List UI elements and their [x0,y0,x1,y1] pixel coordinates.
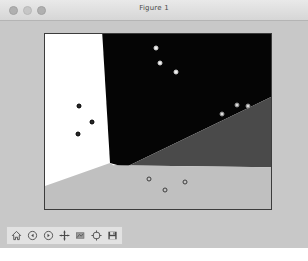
data-point [158,60,163,65]
data-point [182,179,187,184]
window-titlebar[interactable]: Figure 1 [0,0,308,21]
data-point [75,132,80,137]
data-point [246,103,251,108]
save-disk-icon[interactable] [105,228,120,243]
data-point [154,45,159,50]
y-tick [44,160,45,161]
forward-arrow-icon[interactable] [41,228,56,243]
data-point [90,120,95,125]
pan-move-icon[interactable] [57,228,72,243]
x-tick [62,209,63,210]
zoom-rect-icon[interactable] [73,228,88,243]
y-tick [44,141,45,142]
data-point [220,112,225,117]
window-title: Figure 1 [0,4,308,12]
navigation-toolbar[interactable] [6,226,123,245]
matplotlib-figure: 0123456780123456 [12,25,296,242]
x-tick [217,209,218,210]
configure-subplots-icon[interactable] [89,228,104,243]
y-tick [44,47,45,48]
plot-axes[interactable]: 0123456780123456 [44,33,272,210]
back-arrow-icon[interactable] [25,228,40,243]
data-point [173,70,178,75]
y-tick [44,104,45,105]
y-tick [44,179,45,180]
data-point [234,103,239,108]
y-tick [44,85,45,86]
figure-canvas-area: 0123456780123456 [0,21,308,248]
x-tick [155,209,156,210]
home-icon[interactable] [9,228,24,243]
x-tick [248,209,249,210]
figure-window: Figure 1 0123456780123456 [0,0,308,248]
data-point [162,188,167,193]
data-point [77,104,82,109]
page-bottom-strip [0,248,308,261]
data-point [147,177,152,182]
x-tick [93,209,94,210]
x-tick [186,209,187,210]
y-tick [44,198,45,199]
region-white [45,34,110,186]
x-tick [124,209,125,210]
y-tick [44,66,45,67]
y-tick [44,122,45,123]
